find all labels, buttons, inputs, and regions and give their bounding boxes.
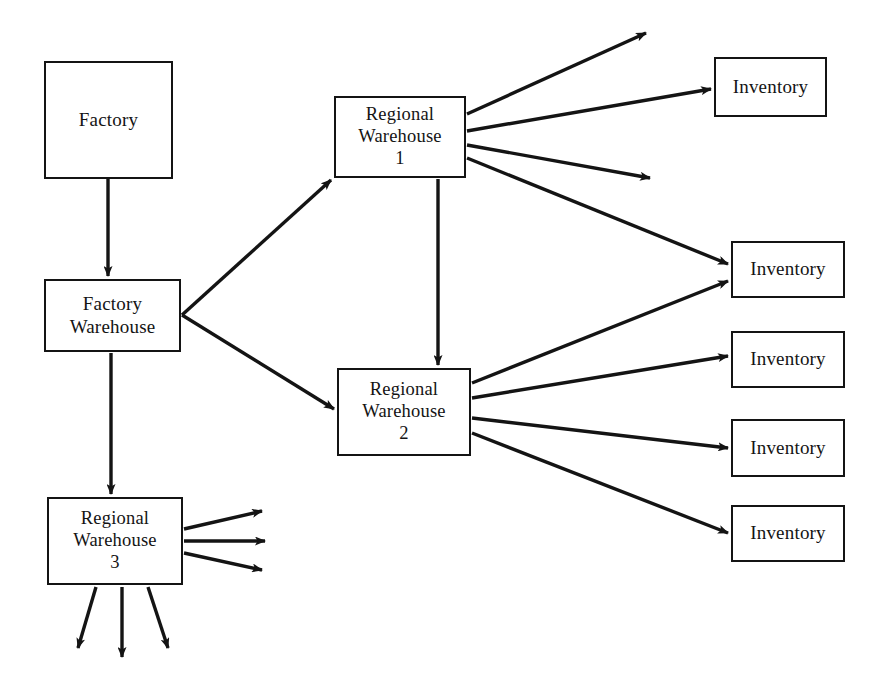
node-regional-warehouse-3[interactable]: Regional Warehouse 3 [47, 497, 183, 585]
edge-rw3-out-right-c [184, 553, 262, 570]
node-inventory-4[interactable]: Inventory [731, 505, 845, 562]
edge-rw1-to-inventory-2 [467, 158, 728, 264]
edge-rw3-out-down-c [148, 587, 168, 648]
node-factory[interactable]: Factory [44, 61, 173, 179]
edge-rw1-out-a [467, 33, 646, 114]
edge-rw2-to-inventory-3 [472, 418, 728, 448]
edge-rw1-to-inventory-1 [467, 89, 711, 131]
node-regional-warehouse-2-label: Regional Warehouse 2 [358, 379, 450, 444]
edge-rw2-to-inventory-2 [472, 281, 728, 383]
node-inventory-5-label: Inventory [746, 348, 830, 370]
edge-rw3-out-right-a [184, 511, 262, 529]
edge-rw3-out-down-a [78, 587, 96, 648]
node-inventory-5[interactable]: Inventory [731, 331, 845, 388]
node-inventory-2-label: Inventory [746, 258, 830, 280]
node-inventory-3[interactable]: Inventory [731, 419, 845, 477]
node-regional-warehouse-3-label: Regional Warehouse 3 [69, 508, 161, 573]
edge-factory-warehouse-to-rw1 [182, 180, 331, 315]
edge-rw2-to-inventory-5 [472, 356, 728, 398]
node-inventory-3-label: Inventory [746, 437, 830, 459]
node-inventory-2[interactable]: Inventory [731, 241, 845, 298]
node-inventory-4-label: Inventory [746, 522, 830, 544]
node-inventory-1-label: Inventory [729, 76, 813, 98]
node-regional-warehouse-1-label: Regional Warehouse 1 [354, 104, 446, 169]
node-inventory-1[interactable]: Inventory [714, 57, 827, 117]
edge-rw1-out-b [467, 145, 650, 178]
node-regional-warehouse-1[interactable]: Regional Warehouse 1 [334, 96, 466, 178]
node-factory-warehouse[interactable]: Factory Warehouse [44, 279, 181, 352]
distribution-network-diagram: Factory Factory Warehouse Regional Wareh… [0, 0, 892, 686]
edge-rw2-to-inventory-4 [472, 433, 728, 533]
edge-factory-warehouse-to-rw2 [182, 315, 334, 409]
node-factory-warehouse-label: Factory Warehouse [66, 293, 160, 338]
node-regional-warehouse-2[interactable]: Regional Warehouse 2 [337, 368, 471, 456]
node-factory-label: Factory [75, 109, 142, 131]
